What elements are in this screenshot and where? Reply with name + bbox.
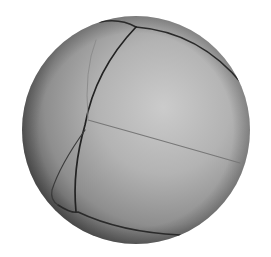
- sphere: [22, 16, 250, 244]
- sphere-image: [0, 0, 271, 257]
- sphere-rim-shadow: [22, 16, 250, 244]
